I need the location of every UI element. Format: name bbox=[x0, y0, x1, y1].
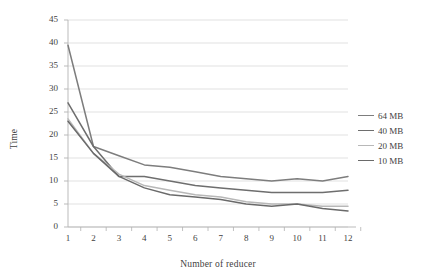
legend-label: 40 MB bbox=[378, 126, 403, 136]
x-tick-marks bbox=[81, 227, 361, 231]
x-tick-label: 5 bbox=[160, 233, 180, 243]
legend-label: 20 MB bbox=[378, 141, 403, 151]
x-tick-label: 11 bbox=[313, 233, 333, 243]
y-tick-label: 5 bbox=[32, 198, 58, 208]
legend-item: 64 MB bbox=[358, 108, 436, 123]
legend-label: 64 MB bbox=[378, 111, 403, 121]
x-tick-label: 9 bbox=[262, 233, 282, 243]
x-tick-label: 3 bbox=[109, 233, 129, 243]
x-tick-label: 7 bbox=[211, 233, 231, 243]
legend-swatch-line-icon bbox=[358, 160, 374, 161]
x-tick-label: 2 bbox=[83, 233, 103, 243]
chart-legend: 64 MB40 MB20 MB10 MB bbox=[358, 108, 436, 168]
x-axis-title: Number of reducer bbox=[0, 259, 436, 269]
y-tick-label: 20 bbox=[32, 129, 58, 139]
legend-label: 10 MB bbox=[378, 156, 403, 166]
data-series-lines bbox=[68, 45, 348, 211]
legend-item: 40 MB bbox=[358, 123, 436, 138]
x-tick-label: 6 bbox=[185, 233, 205, 243]
y-tick-label: 0 bbox=[32, 221, 58, 231]
chart-figure: 051015202530354045 123456789101112 Time … bbox=[0, 0, 436, 277]
y-tick-label: 40 bbox=[32, 37, 58, 47]
y-tick-label: 30 bbox=[32, 83, 58, 93]
legend-swatch-line-icon bbox=[358, 130, 374, 131]
x-tick-label: 8 bbox=[236, 233, 256, 243]
y-tick-label: 45 bbox=[32, 14, 58, 24]
legend-item: 20 MB bbox=[358, 138, 436, 153]
y-tick-label: 25 bbox=[32, 106, 58, 116]
x-tick-label: 12 bbox=[338, 233, 358, 243]
legend-item: 10 MB bbox=[358, 153, 436, 168]
x-tick-label: 10 bbox=[287, 233, 307, 243]
legend-swatch-line-icon bbox=[358, 145, 374, 146]
y-tick-label: 15 bbox=[32, 152, 58, 162]
legend-swatch-line-icon bbox=[358, 115, 374, 116]
x-tick-label: 4 bbox=[134, 233, 154, 243]
y-tick-label: 10 bbox=[32, 175, 58, 185]
y-tick-label: 35 bbox=[32, 60, 58, 70]
x-tick-label: 1 bbox=[58, 233, 78, 243]
y-tick-marks bbox=[64, 20, 68, 227]
y-axis-title: Time bbox=[9, 128, 19, 149]
